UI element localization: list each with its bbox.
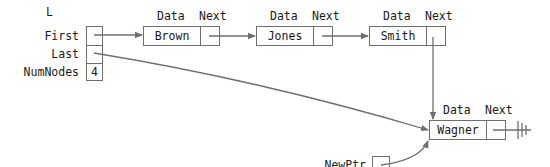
newptr-arrow	[381, 141, 428, 165]
pointer-arrows	[0, 0, 550, 167]
last-arrow	[94, 53, 428, 130]
